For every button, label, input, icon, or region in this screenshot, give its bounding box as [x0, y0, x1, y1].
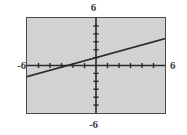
y-min-label: -6 — [0, 119, 187, 130]
x-max-label: 6 — [170, 60, 185, 71]
x-min-label: -6 — [2, 60, 26, 71]
plot-canvas — [27, 18, 165, 113]
y-max-label: 6 — [0, 2, 187, 13]
graphing-calculator-screenshot: 6 -6 6 -6 — [0, 0, 187, 135]
axes-group — [27, 18, 165, 113]
plot-window — [26, 17, 166, 114]
